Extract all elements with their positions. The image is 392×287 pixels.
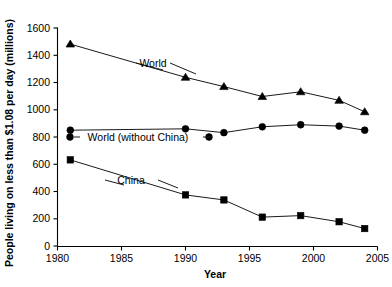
series-world — [66, 40, 369, 115]
x-axis-title: Year — [204, 268, 226, 280]
data-point — [362, 225, 368, 231]
y-tick-label-1400: 1400 — [27, 49, 51, 61]
line-chart: 1600 1400 1200 1000 800 600 400 200 0 19… — [0, 0, 392, 287]
data-point — [67, 127, 74, 134]
x-axis-ticks — [58, 247, 378, 251]
y-tick-label-0: 0 — [44, 240, 50, 252]
y-tick-label-200: 200 — [32, 212, 50, 224]
y-tick-label-400: 400 — [32, 185, 50, 197]
data-point — [259, 123, 266, 130]
data-point — [360, 108, 369, 115]
y-tick-label-600: 600 — [32, 158, 50, 170]
y-tick-label-1600: 1600 — [27, 22, 51, 34]
series-line — [70, 44, 364, 112]
series-label-world: World — [139, 57, 166, 69]
data-point — [259, 214, 265, 220]
data-point — [67, 157, 73, 163]
data-point — [66, 40, 75, 47]
series-label-china: China — [117, 174, 145, 186]
data-point — [221, 129, 228, 136]
x-tick-label-1990: 1990 — [174, 252, 198, 264]
y-tick-label-1200: 1200 — [27, 76, 51, 88]
data-point — [182, 192, 188, 198]
chart-container: 1600 1400 1200 1000 800 600 400 200 0 19… — [0, 0, 392, 287]
legend-marker-circle — [67, 134, 74, 141]
y-axis-title: People living on less than $1.08 per day… — [3, 19, 15, 267]
data-point — [336, 219, 342, 225]
x-tick-label-2000: 2000 — [302, 252, 326, 264]
series-label-world-without-china: World (without China) — [88, 131, 189, 143]
data-point — [298, 212, 304, 218]
x-tick-label-1980: 1980 — [46, 252, 70, 264]
y-axis-ticks — [54, 28, 58, 246]
annotation-leaders — [74, 63, 212, 188]
data-point — [297, 121, 304, 128]
series-china — [67, 157, 368, 232]
y-tick-label-1000: 1000 — [27, 103, 51, 115]
y-tick-label-800: 800 — [32, 131, 50, 143]
x-tick-label-1985: 1985 — [110, 252, 134, 264]
x-tick-label-1995: 1995 — [238, 252, 262, 264]
data-point — [296, 88, 305, 95]
x-tick-label-2005: 2005 — [366, 252, 390, 264]
data-point — [336, 123, 343, 130]
series-line — [70, 160, 364, 229]
data-point — [361, 127, 368, 134]
data-point — [221, 197, 227, 203]
